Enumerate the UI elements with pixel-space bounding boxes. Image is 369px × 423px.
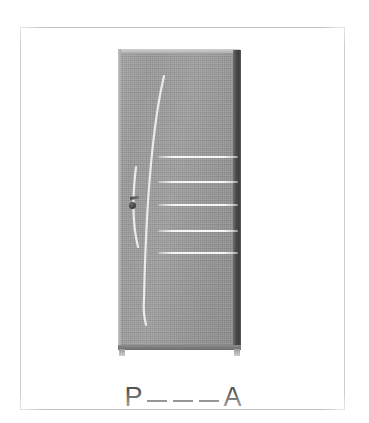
card-frame: PA bbox=[20, 27, 345, 410]
door-handle-lever bbox=[130, 196, 139, 200]
door-slat bbox=[158, 204, 238, 206]
door-glare-long-curve bbox=[144, 76, 164, 325]
puzzle-blank[interactable] bbox=[173, 400, 193, 402]
puzzle-first-letter: P bbox=[124, 384, 143, 411]
door-handle-icon bbox=[129, 197, 139, 210]
word-puzzle: PA bbox=[21, 384, 346, 411]
door-bottom-edge bbox=[118, 345, 241, 350]
door-photo bbox=[118, 49, 248, 383]
door-slat bbox=[158, 181, 238, 183]
door-foot-left bbox=[119, 349, 125, 356]
puzzle-blank-group[interactable] bbox=[144, 382, 222, 412]
door-left-jamb bbox=[118, 49, 121, 349]
door-handle-knob bbox=[129, 202, 136, 209]
door-foot-right bbox=[234, 349, 240, 356]
door-slat bbox=[158, 230, 238, 232]
door-slat bbox=[158, 252, 238, 254]
door-leaf bbox=[118, 49, 240, 349]
door-slat bbox=[158, 156, 238, 158]
door-top-edge bbox=[118, 49, 240, 53]
puzzle-last-letter: A bbox=[224, 384, 243, 411]
puzzle-blank[interactable] bbox=[199, 400, 219, 402]
puzzle-blank[interactable] bbox=[147, 400, 167, 402]
door-right-jamb bbox=[233, 50, 241, 350]
